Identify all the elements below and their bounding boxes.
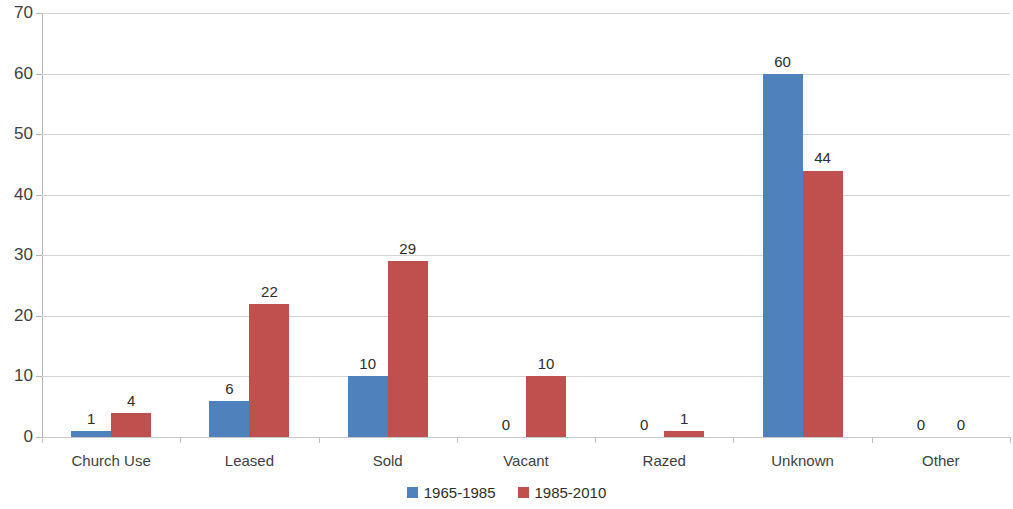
- bar-leased-1965-1985: [209, 401, 249, 437]
- bar-value-label: 10: [526, 355, 566, 372]
- gridline-20: [42, 316, 1010, 317]
- x-axis-category-label-vacant: Vacant: [503, 452, 549, 469]
- y-axis-tick-label-20: 20: [0, 306, 33, 326]
- bar-chart: 010203040506070 14622102901001604400 Chu…: [0, 0, 1013, 509]
- bar-church-use-1985-2010: [111, 413, 151, 437]
- bar-value-label: 0: [901, 416, 941, 433]
- y-axis-tick-label-50: 50: [0, 124, 33, 144]
- bar-unknown-1965-1985: [763, 74, 803, 437]
- bar-value-label: 1: [664, 410, 704, 427]
- x-axis-tick: [180, 437, 181, 443]
- gridline-70: [42, 13, 1010, 14]
- y-axis-tick-label-60: 60: [0, 64, 33, 84]
- gridline-0: [42, 437, 1010, 438]
- bar-value-label: 0: [941, 416, 981, 433]
- bar-value-label: 29: [388, 240, 428, 257]
- bar-church-use-1965-1985: [71, 431, 111, 437]
- x-axis-tick: [457, 437, 458, 443]
- chart-legend: 1965-19851985-2010: [0, 484, 1013, 501]
- x-axis-category-label-sold: Sold: [373, 452, 403, 469]
- bar-value-label: 0: [486, 416, 526, 433]
- plot-area: 14622102901001604400: [42, 13, 1010, 437]
- legend-swatch-icon: [518, 487, 529, 498]
- y-axis-tick-label-70: 70: [0, 3, 33, 23]
- legend-label: 1985-2010: [535, 484, 607, 501]
- x-axis-category-label-razed: Razed: [643, 452, 686, 469]
- x-axis-tick: [1010, 437, 1011, 443]
- y-axis-tick-label-10: 10: [0, 366, 33, 386]
- legend-item-1965-1985[interactable]: 1965-1985: [407, 484, 496, 501]
- gridline-30: [42, 255, 1010, 256]
- x-axis-tick: [42, 437, 43, 443]
- bar-unknown-1985-2010: [803, 171, 843, 438]
- x-axis-category-label-leased: Leased: [225, 452, 274, 469]
- bar-razed-1985-2010: [664, 431, 704, 437]
- y-axis-tick-label-40: 40: [0, 185, 33, 205]
- x-axis-category-label-other: Other: [922, 452, 960, 469]
- legend-item-1985-2010[interactable]: 1985-2010: [518, 484, 607, 501]
- x-axis-tick: [319, 437, 320, 443]
- gridline-50: [42, 134, 1010, 135]
- bar-value-label: 4: [111, 392, 151, 409]
- gridline-40: [42, 195, 1010, 196]
- bar-leased-1985-2010: [249, 304, 289, 437]
- bar-vacant-1985-2010: [526, 376, 566, 437]
- legend-swatch-icon: [407, 487, 418, 498]
- x-axis-tick: [733, 437, 734, 443]
- bar-value-label: 10: [348, 355, 388, 372]
- x-axis-category-label-church-use: Church Use: [72, 452, 151, 469]
- bar-value-label: 6: [209, 380, 249, 397]
- gridline-60: [42, 74, 1010, 75]
- y-axis-tick-label-0: 0: [0, 427, 33, 447]
- bar-value-label: 0: [624, 416, 664, 433]
- bar-value-label: 1: [71, 410, 111, 427]
- bar-value-label: 60: [763, 53, 803, 70]
- legend-label: 1965-1985: [424, 484, 496, 501]
- bar-sold-1965-1985: [348, 376, 388, 437]
- y-axis-tick-label-30: 30: [0, 245, 33, 265]
- bar-value-label: 44: [803, 149, 843, 166]
- bar-sold-1985-2010: [388, 261, 428, 437]
- x-axis-tick: [872, 437, 873, 443]
- bar-value-label: 22: [249, 283, 289, 300]
- x-axis-tick: [595, 437, 596, 443]
- x-axis-category-label-unknown: Unknown: [771, 452, 834, 469]
